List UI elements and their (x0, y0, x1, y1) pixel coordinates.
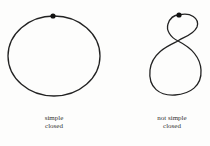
label-simple-closed: simple closed (26, 114, 82, 130)
label-line2: closed (26, 122, 82, 130)
simple-closed-curve (8, 16, 100, 96)
not-simple-closed-curve (150, 14, 201, 95)
marked-point-left (50, 13, 55, 18)
label-line1: simple (26, 114, 82, 122)
label-line2: closed (142, 122, 202, 130)
marked-point-right (176, 12, 181, 17)
label-line1: not simple (142, 114, 202, 122)
label-not-simple-closed: not simple closed (142, 114, 202, 130)
